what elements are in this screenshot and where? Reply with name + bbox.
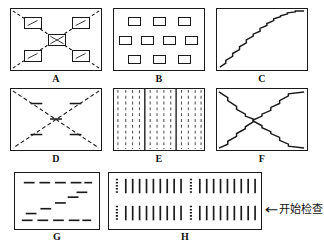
panel-h-content [109, 173, 261, 229]
panel-d-label: D [10, 154, 102, 164]
panel-b-box [163, 36, 176, 45]
panel-d-tick-marks [31, 104, 82, 135]
inspection-pattern-figure: A B C [0, 0, 324, 252]
panel-b-box [119, 36, 132, 45]
panel-b-box [178, 55, 191, 64]
panel-h [108, 172, 262, 230]
panel-a-center-x-icon [49, 35, 65, 45]
panel-e-content [114, 89, 204, 150]
panel-a-stroke-top-left [25, 18, 41, 28]
panel-h-solid-group [200, 179, 255, 193]
panel-g-pattern [15, 173, 99, 229]
panel-b-box [178, 17, 191, 26]
panel-b-label: B [113, 74, 205, 84]
panel-f-content [217, 89, 307, 150]
panel-b [113, 8, 205, 71]
panel-d [10, 88, 102, 151]
panel-b-box [185, 36, 198, 45]
panel-f-staircase-up [219, 92, 304, 148]
panel-b-box [128, 17, 141, 26]
panel-f [216, 88, 308, 151]
panel-e [113, 88, 205, 151]
panel-d-dashed-x [11, 89, 101, 150]
panel-a-box-center [48, 34, 66, 46]
left-arrow-icon: ← [265, 203, 279, 216]
panel-h-row-bottom [117, 206, 255, 220]
panel-a-box-bottom-left [24, 50, 42, 62]
panel-d-content [11, 89, 101, 150]
panel-a-box-bottom-right [72, 50, 90, 62]
panel-a-box-top-right [72, 17, 90, 29]
panel-e-label: E [113, 154, 205, 164]
panel-g [14, 172, 100, 230]
panel-b-box [153, 17, 166, 26]
panel-c-content [217, 9, 307, 70]
panel-a-label: A [10, 74, 102, 84]
panel-f-staircase-x [217, 89, 307, 150]
panel-c-staircase-path [217, 9, 307, 70]
panel-g-staircase-dashes [26, 192, 88, 213]
panel-e-lanes [114, 89, 204, 150]
panel-h-row-top [117, 179, 255, 193]
panel-b-content [114, 9, 204, 70]
panel-f-label: F [216, 154, 308, 164]
panel-c-label: C [216, 74, 308, 84]
panel-h-solid-group [200, 206, 255, 220]
panel-a-content [11, 9, 101, 70]
panel-e-dashed-lines [118, 90, 201, 149]
panel-b-box [128, 55, 141, 64]
panel-b-box [153, 55, 166, 64]
panel-a-stroke-bottom-right [73, 51, 89, 61]
panel-h-solid-group [126, 206, 181, 220]
annotation-label: 开始检查 [279, 203, 323, 216]
panel-e-solid-dividers [145, 89, 176, 150]
start-inspection-annotation: ← 开始检查 [266, 203, 323, 216]
panel-h-label: H [108, 232, 262, 242]
panel-a-stroke-top-right [73, 18, 89, 28]
panel-a-stroke-bottom-left [25, 51, 41, 61]
panel-b-box [141, 36, 154, 45]
panel-a-box-top-left [24, 17, 42, 29]
panel-c [216, 8, 308, 71]
panel-g-content [15, 173, 99, 229]
panel-a [10, 8, 102, 71]
panel-g-label: G [14, 232, 100, 242]
panel-h-solid-group [126, 179, 181, 193]
panel-h-stroke-rows [109, 173, 261, 229]
